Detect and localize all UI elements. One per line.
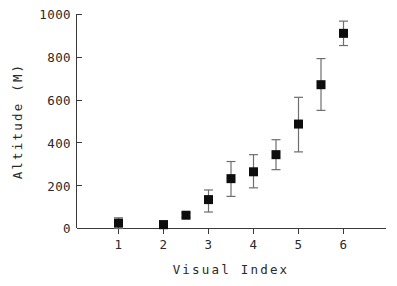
data-point[interactable] <box>249 155 258 188</box>
marker-square[interactable] <box>272 150 281 159</box>
data-point[interactable] <box>317 59 326 111</box>
x-tick-marks <box>119 229 344 234</box>
x-tick-labels: 1 2 3 4 5 6 <box>115 237 348 252</box>
series-altitude <box>114 21 348 229</box>
y-tick-label-600: 600 <box>47 93 71 108</box>
marker-square[interactable] <box>249 167 258 176</box>
x-tick-label-6: 6 <box>340 237 348 252</box>
y-tick-label-0: 0 <box>63 221 71 236</box>
y-tick-label-400: 400 <box>47 136 71 151</box>
y-axis-title: Altitude (M) <box>10 63 25 180</box>
marker-square[interactable] <box>182 211 191 220</box>
marker-square[interactable] <box>227 174 236 183</box>
marker-square[interactable] <box>294 120 303 129</box>
data-point[interactable] <box>159 220 168 229</box>
marker-square[interactable] <box>114 219 123 228</box>
marker-square[interactable] <box>204 195 213 204</box>
y-tick-labels: 1000 800 600 400 200 0 <box>39 7 71 236</box>
marker-square[interactable] <box>317 80 326 89</box>
data-point[interactable] <box>182 211 191 220</box>
data-point[interactable] <box>204 190 213 212</box>
chart-figure: 1000 800 600 400 200 0 1 2 3 4 5 6 Visua… <box>0 0 397 286</box>
data-point[interactable] <box>339 21 348 45</box>
y-tick-label-200: 200 <box>47 179 71 194</box>
y-tick-label-1000: 1000 <box>39 7 71 22</box>
x-tick-label-5: 5 <box>295 237 303 252</box>
marker-square[interactable] <box>339 29 348 38</box>
data-point[interactable] <box>227 162 236 197</box>
x-axis-title: Visual Index <box>173 262 290 277</box>
x-tick-label-2: 2 <box>160 237 168 252</box>
marker-square[interactable] <box>159 220 168 229</box>
data-series-layer <box>114 21 348 229</box>
y-tick-marks <box>77 15 82 229</box>
scatter-plot-canvas: 1000 800 600 400 200 0 1 2 3 4 5 6 Visua… <box>0 0 397 286</box>
x-tick-label-3: 3 <box>205 237 213 252</box>
x-tick-label-4: 4 <box>250 237 258 252</box>
data-point[interactable] <box>272 140 281 170</box>
x-tick-label-1: 1 <box>115 237 123 252</box>
data-point[interactable] <box>294 97 303 152</box>
data-point[interactable] <box>114 218 123 229</box>
y-tick-label-800: 800 <box>47 50 71 65</box>
